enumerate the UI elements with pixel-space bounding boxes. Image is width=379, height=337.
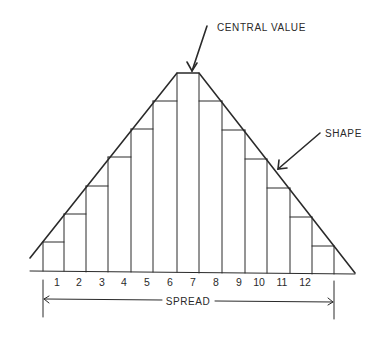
bar-label: 8 bbox=[213, 276, 219, 288]
diagram-canvas: CENTRAL VALUE SHAPE 1 2 3 4 5 6 7 8 9 10… bbox=[0, 0, 379, 337]
bar-label: 10 bbox=[253, 276, 265, 288]
bar-labels: 1 2 3 4 5 6 7 8 9 10 11 12 bbox=[54, 276, 311, 288]
baseline bbox=[30, 271, 355, 274]
bar-edges bbox=[43, 73, 334, 274]
bar-label: 3 bbox=[99, 276, 105, 288]
bar-label: 9 bbox=[236, 276, 242, 288]
shape-label: SHAPE bbox=[325, 128, 362, 139]
bar-label: 7 bbox=[190, 276, 196, 288]
bar-label: 12 bbox=[299, 276, 311, 288]
bar-label: 5 bbox=[144, 276, 150, 288]
bar-label: 6 bbox=[167, 276, 173, 288]
distribution-diagram: CENTRAL VALUE SHAPE 1 2 3 4 5 6 7 8 9 10… bbox=[0, 0, 379, 337]
bar-label: 11 bbox=[277, 276, 288, 288]
central-value-label: CENTRAL VALUE bbox=[217, 22, 306, 33]
central-value-arrow-icon bbox=[187, 26, 207, 71]
bar-label: 4 bbox=[121, 276, 127, 288]
bar-label: 2 bbox=[76, 276, 82, 288]
shape-envelope bbox=[30, 73, 355, 273]
bar-label: 1 bbox=[54, 276, 60, 288]
shape-arrow-icon bbox=[278, 133, 320, 169]
spread-label: SPREAD bbox=[166, 296, 211, 307]
